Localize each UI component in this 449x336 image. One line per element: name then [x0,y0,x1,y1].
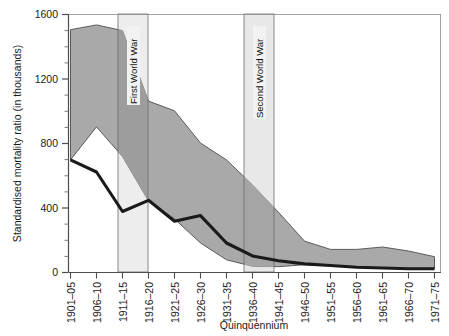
ww1-label: First World War [128,39,139,104]
mortality-ratio-area-chart: 0 400 800 1200 1600 1901–05 [0,0,449,336]
x-tick-label: 1916–20 [143,282,155,323]
x-tick-label: 1906–10 [91,282,103,323]
ww2-label: Second World War [254,39,265,118]
y-tick-label: 400 [40,202,58,214]
x-tick-label: 1956–60 [351,282,363,323]
x-tick-label: 1911–15 [117,282,129,322]
x-tick-label: 1926–30 [195,282,207,323]
x-tick-label: 1941–45 [273,282,285,323]
second-world-war-annotation: Second World War [253,26,266,119]
chart-svg: 0 400 800 1200 1600 1901–05 [0,0,449,336]
x-tick-label: 1936–40 [247,282,259,323]
x-axis-tick-labels: 1901–05 1906–10 1911–15 1916–20 1921–25 … [65,282,441,323]
x-tick-label: 1921–25 [169,282,181,323]
y-axis-major-ticks [62,15,69,273]
x-axis-title: Quinquennium [220,319,289,331]
x-tick-label: 1961–65 [377,282,389,323]
x-tick-label: 1946–50 [299,282,311,323]
first-world-war-annotation: First World War [127,26,140,105]
x-tick-label: 1901–05 [65,282,77,323]
y-tick-label: 1600 [35,8,59,20]
x-tick-label: 1971–75 [429,282,441,323]
y-axis-title: Standardised mortality ratio (in thousan… [11,45,23,242]
y-axis-tick-labels: 0 400 800 1200 1600 [35,8,59,278]
y-tick-label: 1200 [35,73,59,85]
x-axis-ticks [71,273,435,279]
y-tick-label: 0 [52,266,58,278]
x-tick-label: 1951–55 [325,282,337,323]
y-tick-label: 800 [40,137,58,149]
x-tick-label: 1966–70 [403,282,415,323]
x-tick-label: 1931–35 [221,282,233,323]
